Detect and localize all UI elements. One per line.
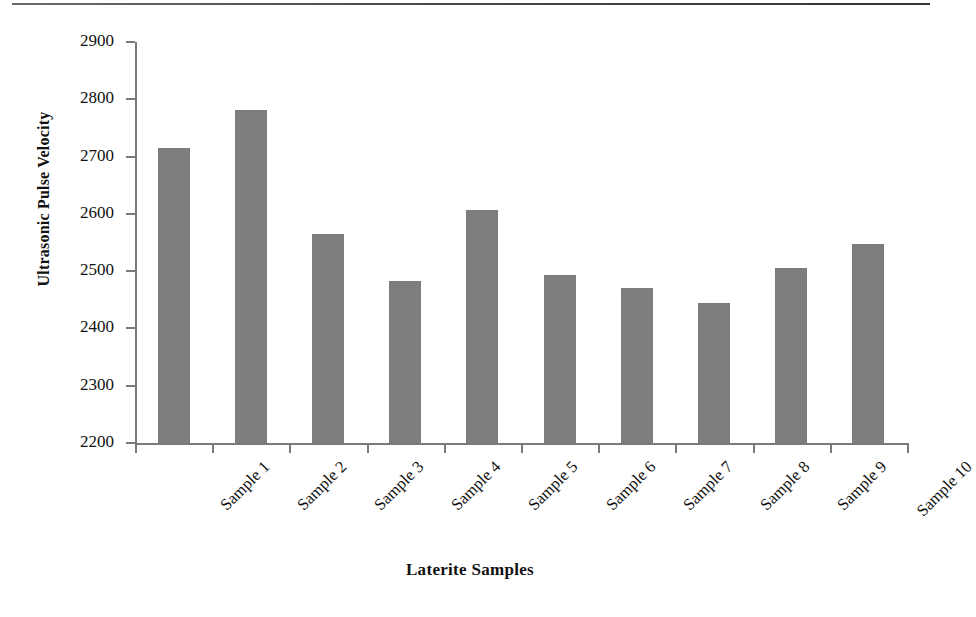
y-tick-label-2300: 2300 [34,375,114,395]
x-tick-1 [212,443,214,453]
x-tick-2 [289,443,291,453]
x-tick-5 [521,443,523,453]
x-tick-label-3: Sample 3 [370,457,428,515]
x-tick-3 [367,443,369,453]
bar-10 [852,244,884,443]
bar-5 [466,210,498,443]
x-tick-label-8: Sample 8 [756,457,814,515]
y-axis-line [135,42,137,445]
bar-4 [389,281,421,443]
y-tick-label-2800: 2800 [34,88,114,108]
y-tick-label-2500: 2500 [34,260,114,280]
y-tick-2300 [126,385,135,387]
y-tick-label-2200: 2200 [34,432,114,452]
x-tick-9 [830,443,832,453]
bar-3 [312,234,344,443]
bar-9 [775,268,807,443]
x-tick-0 [135,443,137,453]
y-tick-2800 [126,98,135,100]
x-tick-10 [907,443,909,453]
x-tick-label-2: Sample 2 [293,457,351,515]
y-tick-label-2900: 2900 [34,31,114,51]
x-tick-8 [753,443,755,453]
y-tick-label-2700: 2700 [34,146,114,166]
x-tick-4 [444,443,446,453]
x-tick-label-5: Sample 5 [525,457,583,515]
x-tick-label-6: Sample 6 [602,457,660,515]
x-tick-label-7: Sample 7 [679,457,737,515]
bar-7 [621,288,653,443]
x-tick-7 [675,443,677,453]
bar-1 [158,148,190,443]
y-tick-2700 [126,156,135,158]
y-tick-2500 [126,270,135,272]
y-tick-2400 [126,327,135,329]
page-top-rule [12,3,930,5]
x-tick-label-1: Sample 1 [216,457,274,515]
x-axis-title: Laterite Samples [0,560,940,580]
y-tick-2600 [126,213,135,215]
x-tick-label-4: Sample 4 [447,457,505,515]
x-tick-label-10: Sample 10 [913,457,976,521]
y-tick-label-2400: 2400 [34,317,114,337]
x-tick-label-9: Sample 9 [833,457,891,515]
y-tick-2200 [126,442,135,444]
bar-8 [698,303,730,443]
y-tick-label-2600: 2600 [34,203,114,223]
x-tick-6 [598,443,600,453]
bar-6 [544,275,576,443]
y-tick-2900 [126,41,135,43]
bar-2 [235,110,267,443]
plot-area: 29002800270026002500240023002200 Sample … [135,42,907,443]
